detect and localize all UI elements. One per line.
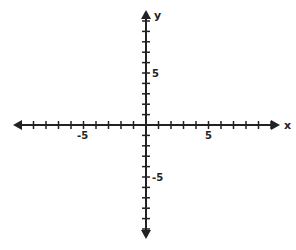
y-tick-label-neg5: -5: [152, 172, 163, 183]
x-tick-label-neg5: -5: [77, 130, 88, 141]
y-axis-up-arrow-icon: [141, 10, 151, 19]
y-axis-down-arrow-icon: [141, 230, 151, 239]
y-axis-label: y: [154, 9, 161, 22]
x-tick-label-pos5: 5: [205, 130, 212, 141]
y-tick-label-pos5: 5: [152, 68, 159, 79]
coordinate-plane: x y -5 5 5 -5: [0, 0, 296, 250]
x-axis-label: x: [284, 119, 291, 132]
x-axis-right-arrow-icon: [271, 120, 280, 130]
